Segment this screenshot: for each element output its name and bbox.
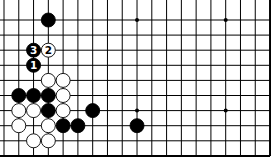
white-stone: 2 <box>41 43 55 57</box>
white-stone <box>41 134 55 148</box>
black-stone <box>41 13 55 27</box>
go-board: 321 <box>0 0 271 164</box>
star-point <box>135 109 139 113</box>
white-stone <box>12 104 26 118</box>
white-stone <box>56 73 70 87</box>
white-stone <box>56 104 70 118</box>
black-stone <box>41 104 55 118</box>
white-stone <box>12 119 26 133</box>
black-stone <box>56 119 70 133</box>
white-stone <box>41 73 55 87</box>
move-number-label: 2 <box>45 44 52 56</box>
star-point <box>224 109 228 113</box>
black-stone <box>71 119 85 133</box>
black-stone <box>130 119 144 133</box>
move-number-label: 3 <box>30 44 37 56</box>
black-stone: 3 <box>27 43 41 57</box>
black-stone <box>41 89 55 103</box>
star-point <box>135 18 139 22</box>
black-stone <box>27 89 41 103</box>
white-stone <box>27 104 41 118</box>
star-point <box>224 18 228 22</box>
black-stone: 1 <box>27 58 41 72</box>
move-number-label: 1 <box>30 59 37 71</box>
white-stone <box>41 119 55 133</box>
black-stone <box>86 104 100 118</box>
black-stone <box>12 89 26 103</box>
white-stone <box>27 134 41 148</box>
white-stone <box>56 89 70 103</box>
